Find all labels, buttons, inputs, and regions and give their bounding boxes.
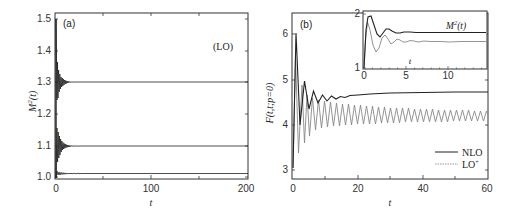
legend: NLO LO+ [435,147,483,170]
panel-b-label: (b) [300,19,312,30]
xtick-label: 40 [417,183,429,194]
ytick-label: 5 [282,74,288,85]
ytick-label: 1.0 [37,171,51,182]
xtick-label: 0 [290,183,296,194]
series-lo-plus [293,56,488,168]
panel-a-xlabel: t [150,197,153,208]
inset-xtick-label: 0 [361,70,367,81]
ytick-label: 6 [282,28,288,39]
xtick-label: 0 [53,183,59,194]
panel-b-ytick-labels: 6 5 4 3 [282,28,288,175]
inset-xtick-label: 10 [442,70,454,81]
panel-b-xtick-labels: 0 20 40 60 [290,183,493,194]
legend-nlo-label: NLO [462,147,483,158]
panel-b: 6 5 4 3 0 20 40 60 t F(t,t;p=0) (b) NLO … [264,8,493,208]
xtick-label: 100 [143,183,160,194]
ytick-label: 1.5 [37,13,51,24]
panel-a: 1.5 1.4 1.3 1.2 1.1 1.0 0 100 200 t M2(t… [26,13,255,208]
panel-b-ylabel: F(t,t;p=0) [264,82,276,125]
xtick-label: 20 [352,183,364,194]
panel-a-annotation: (LO) [213,41,233,53]
panel-a-label: (a) [63,18,75,29]
ytick-label: 1.4 [37,45,51,56]
xtick-label: 200 [238,183,255,194]
inset: 2 1 0 5 10 t M2(t) [354,8,487,81]
legend-lo-label: LO+ [462,159,479,170]
inset-ytick-label: 2 [354,8,360,19]
ytick-label: 1.1 [37,140,51,151]
panel-a-frame [55,13,248,179]
panel-b-xlabel: t [389,197,392,208]
panel-a-ytick-labels: 1.5 1.4 1.3 1.2 1.1 1.0 [37,13,51,182]
ytick-label: 1.2 [37,108,51,119]
inset-ytick-label: 1 [354,62,360,73]
figure: 1.5 1.4 1.3 1.2 1.1 1.0 0 100 200 t M2(t… [0,0,511,211]
ytick-label: 1.3 [37,76,51,87]
panel-a-xtick-labels: 0 100 200 [53,183,255,194]
xtick-label: 60 [481,183,493,194]
panel-a-yticks [55,13,248,179]
inset-xtick-label: 5 [403,70,409,81]
ytick-label: 4 [282,119,288,130]
panel-a-ylabel: M2(t) [26,90,39,113]
ytick-label: 3 [282,164,288,175]
